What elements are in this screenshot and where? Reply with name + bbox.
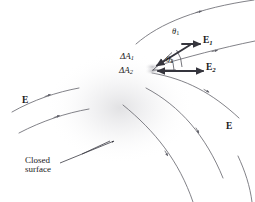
label-delta-A1: ΔA1 (120, 52, 134, 62)
label-theta2: θ2 (166, 55, 173, 65)
label-delta-A2: ΔA2 (119, 66, 133, 76)
label-E-right: E (226, 122, 232, 132)
label-E1: E1 (203, 36, 213, 46)
label-E2: E2 (206, 63, 216, 73)
delta-A-1-vector (157, 45, 190, 66)
label-E-left: E (22, 96, 28, 106)
label-closed-surface: Closed surface (25, 156, 51, 175)
field-line-top-outer (136, 0, 254, 44)
field-line-bottom-far-right (238, 156, 252, 202)
label-theta1: θ1 (172, 27, 179, 37)
closed-surface-line-2: surface (25, 165, 51, 174)
electric-flux-diagram: E1 E2 E E ΔA1 ΔA2 θ1 θ2 Closed surface (0, 0, 255, 202)
field-line-top-outer-arrow (196, 11, 201, 12)
